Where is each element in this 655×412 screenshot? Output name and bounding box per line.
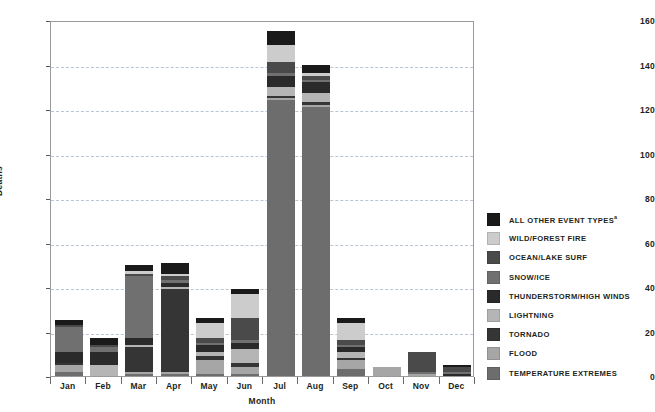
legend-item[interactable]: THUNDERSTORM/HIGH WINDS xyxy=(487,287,655,306)
bar-segment xyxy=(337,352,365,359)
x-tick-label-apr: Apr xyxy=(166,381,181,391)
y-tick-label: 160 xyxy=(611,16,655,26)
legend-item[interactable]: OCEAN/LAKE SURF xyxy=(487,248,655,267)
bar-segment xyxy=(161,374,189,376)
legend-item[interactable]: WILD/FOREST FIRE xyxy=(487,229,655,248)
legend-item[interactable]: FLOOD xyxy=(487,344,655,363)
bar-segment xyxy=(267,87,295,96)
bar-jul[interactable] xyxy=(267,31,295,376)
bar-segment xyxy=(443,374,471,376)
x-tick-mark xyxy=(85,377,86,384)
chart-legend: ALL OTHER EVENT TYPESaWILD/FOREST FIREOC… xyxy=(487,210,655,383)
bar-segment xyxy=(125,374,153,376)
bar-segment xyxy=(231,349,259,362)
bar-segment xyxy=(55,327,83,351)
x-tick-mark xyxy=(333,377,334,384)
bar-segment xyxy=(302,93,330,102)
bar-segment xyxy=(55,372,83,376)
bar-segment xyxy=(337,360,365,369)
legend-item[interactable]: TORNADO xyxy=(487,325,655,344)
bar-aug[interactable] xyxy=(302,65,330,376)
legend-swatch-icon xyxy=(487,309,500,322)
bar-dec[interactable] xyxy=(443,365,471,376)
bar-segment xyxy=(373,367,401,376)
legend-swatch-icon xyxy=(487,232,500,245)
bar-segment xyxy=(125,265,153,272)
gridline xyxy=(51,289,473,290)
legend-label: ALL OTHER EVENT TYPESa xyxy=(509,214,617,225)
legend-swatch-icon xyxy=(487,213,500,226)
x-tick-mark xyxy=(191,377,192,384)
legend-swatch-icon xyxy=(487,347,500,360)
legend-swatch-icon xyxy=(487,290,500,303)
legend-swatch-icon xyxy=(487,328,500,341)
x-tick-label-may: May xyxy=(200,381,217,391)
bar-segment xyxy=(125,276,153,338)
bar-segment xyxy=(55,352,83,363)
bar-oct[interactable] xyxy=(373,367,401,376)
legend-label: LIGHTNING xyxy=(509,311,554,320)
x-tick-label-oct: Oct xyxy=(378,381,393,391)
gridline xyxy=(51,156,473,157)
y-tick-label: 100 xyxy=(611,150,655,160)
x-tick-label-nov: Nov xyxy=(413,381,430,391)
bar-segment xyxy=(55,365,83,372)
legend-label: THUNDERSTORM/HIGH WINDS xyxy=(509,292,630,301)
gridline xyxy=(51,334,473,335)
bar-mar[interactable] xyxy=(125,265,153,376)
bar-segment xyxy=(196,374,224,376)
x-tick-mark xyxy=(262,377,263,384)
legend-item[interactable]: ALL OTHER EVENT TYPESa xyxy=(487,210,655,229)
stacked-bar-chart: Deaths 020406080100120140160 JanFebMarAp… xyxy=(0,0,655,412)
x-tick-mark xyxy=(368,377,369,384)
gridline xyxy=(51,111,473,112)
gridline xyxy=(51,67,473,68)
x-tick-mark xyxy=(474,377,475,384)
bar-segment xyxy=(302,107,330,376)
bar-may[interactable] xyxy=(196,318,224,376)
bar-segment xyxy=(231,294,259,318)
bar-sep[interactable] xyxy=(337,318,365,376)
legend-item[interactable]: SNOW/ICE xyxy=(487,268,655,287)
x-axis-title: Month xyxy=(50,396,474,406)
bar-apr[interactable] xyxy=(161,263,189,376)
legend-item[interactable]: TEMPERATURE EXTREMES xyxy=(487,364,655,383)
plot-area xyxy=(50,21,474,377)
gridline xyxy=(51,245,473,246)
bar-nov[interactable] xyxy=(408,352,436,376)
x-tick-label-sep: Sep xyxy=(342,381,358,391)
y-tick-label: 120 xyxy=(611,105,655,115)
bar-segment xyxy=(267,76,295,87)
x-tick-mark xyxy=(50,377,51,384)
x-tick-label-jun: Jun xyxy=(236,381,252,391)
legend-label: TORNADO xyxy=(509,330,550,339)
x-tick-label-dec: Dec xyxy=(448,381,464,391)
legend-label: TEMPERATURE EXTREMES xyxy=(509,369,617,378)
bar-segment xyxy=(125,347,153,371)
x-tick-mark xyxy=(121,377,122,384)
bar-jun[interactable] xyxy=(231,289,259,376)
bar-segment xyxy=(90,365,118,376)
bar-segment xyxy=(196,323,224,339)
legend-item[interactable]: LIGHTNING xyxy=(487,306,655,325)
legend-swatch-icon xyxy=(487,271,500,284)
bar-segment xyxy=(231,367,259,374)
legend-swatch-icon xyxy=(487,251,500,264)
bar-segment xyxy=(161,263,189,274)
bar-feb[interactable] xyxy=(90,338,118,376)
bar-segment xyxy=(267,62,295,73)
bar-segment xyxy=(231,343,259,350)
y-tick-label: 140 xyxy=(611,61,655,71)
x-tick-label-aug: Aug xyxy=(306,381,323,391)
x-tick-label-jul: Jul xyxy=(273,381,286,391)
bar-segment xyxy=(408,374,436,376)
bar-segment xyxy=(337,323,365,341)
x-tick-mark xyxy=(439,377,440,384)
legend-footnote-marker: a xyxy=(614,214,617,220)
bar-segment xyxy=(231,318,259,340)
x-tick-label-mar: Mar xyxy=(130,381,146,391)
bar-segment xyxy=(337,369,365,376)
bar-segment xyxy=(90,352,118,365)
bar-segment xyxy=(267,31,295,44)
bar-jan[interactable] xyxy=(55,320,83,376)
